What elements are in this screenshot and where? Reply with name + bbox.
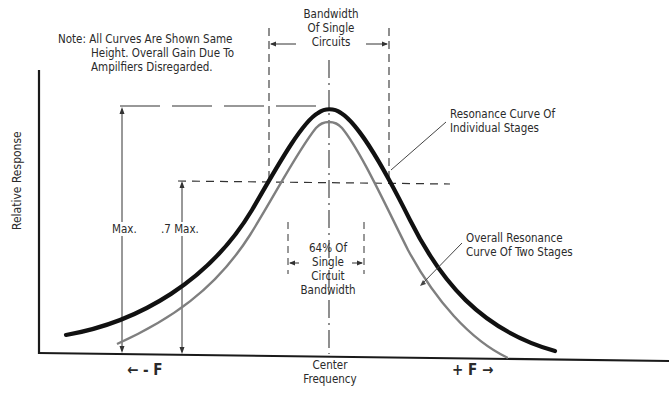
individual-curve-label: Resonance Curve Of Individual Stages — [450, 107, 555, 135]
bandwidth-single-line-2: Of Single — [296, 21, 366, 35]
center-frequency-label: Center Frequency — [290, 358, 370, 386]
bandwidth64-line-4: Bandwidth — [290, 283, 366, 297]
y-axis-label: Relative Response — [10, 131, 24, 230]
individual-curve-leader — [391, 122, 446, 170]
bandwidth64-line-3: Circuit — [290, 269, 366, 283]
individual-curve-line-2: Individual Stages — [450, 121, 555, 135]
bandwidth64-label: 64% Of Single Circuit Bandwidth — [290, 241, 366, 297]
bandwidth-single-line-3: Circuits — [296, 35, 366, 49]
point-seven-arrow-head-top — [180, 181, 185, 188]
point-seven-max-label: .7 Max. — [160, 222, 200, 236]
note-line-1: Note: All Curves Are Shown Same — [58, 32, 232, 46]
center-frequency-line-2: Frequency — [290, 372, 370, 386]
center-frequency-line-1: Center — [290, 358, 370, 372]
minus-f-label: ← - F — [127, 363, 163, 377]
bandwidth64-line-2: Single — [290, 255, 366, 269]
bandwidth-right-arrow-head — [382, 42, 388, 47]
overall-curve-line-1: Overall Resonance — [466, 231, 573, 245]
max-arrow-head-top — [120, 107, 125, 114]
bandwidth64-line-1: 64% Of — [290, 241, 366, 255]
overall-resonance-curve — [117, 122, 508, 358]
plus-f-label: + F → — [452, 363, 493, 377]
max-label: Max. — [111, 222, 138, 236]
bandwidth-left-arrow-head — [270, 42, 276, 47]
note-line-2: Height. Overall Gain Due To — [58, 46, 234, 60]
bandwidth-single-line-1: Bandwidth — [296, 7, 366, 21]
overall-curve-label: Overall Resonance Curve Of Two Stages — [466, 231, 573, 259]
note-text: Note: All Curves Are Shown Same Height. … — [58, 32, 234, 74]
note-line-3: Ampilfiers Disregarded. — [58, 60, 234, 74]
point-seven-max-line — [178, 181, 450, 184]
individual-curve-line-1: Resonance Curve Of — [450, 107, 555, 121]
bandwidth-single-label: Bandwidth Of Single Circuits — [296, 7, 366, 49]
overall-curve-line-2: Curve Of Two Stages — [466, 245, 573, 259]
max-arrow-head-bottom — [120, 346, 125, 353]
point-seven-arrow-head-bottom — [180, 347, 185, 354]
